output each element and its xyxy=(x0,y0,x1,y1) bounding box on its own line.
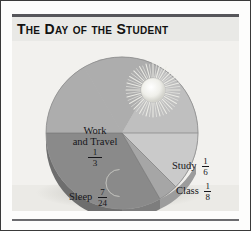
label-study: Study 1 6 xyxy=(172,157,209,177)
figure-bottom-rule xyxy=(12,219,239,221)
label-work-fraction: 1 3 xyxy=(88,148,102,168)
chart-area: Work and Travel 1 3 Study 1 6 Class 1 8 … xyxy=(12,41,239,211)
sun-icon xyxy=(126,63,180,117)
label-work-line2: and Travel xyxy=(73,136,118,147)
label-study-denominator: 6 xyxy=(202,167,209,177)
label-class-numerator: 1 xyxy=(204,182,211,193)
label-work-numerator: 1 xyxy=(88,148,102,159)
label-study-text: Study xyxy=(172,160,197,171)
label-sleep-denominator: 24 xyxy=(98,198,107,208)
label-class-fraction: 1 8 xyxy=(204,182,211,202)
label-sleep-fraction: 7 24 xyxy=(98,188,107,208)
figure-the-day-of-the-student: The Day of the Student xyxy=(0,0,251,231)
figure-title: The Day of the Student xyxy=(17,19,237,39)
label-sleep-numerator: 7 xyxy=(98,188,107,199)
label-study-numerator: 1 xyxy=(202,157,209,168)
label-work-denominator: 3 xyxy=(88,158,102,168)
label-work-line1: Work xyxy=(83,125,106,136)
label-work-and-travel: Work and Travel 1 3 xyxy=(60,125,130,168)
label-sleep-text: Sleep xyxy=(69,191,92,202)
label-class-denominator: 8 xyxy=(204,192,211,202)
label-class: Class 1 8 xyxy=(176,182,211,202)
label-study-fraction: 1 6 xyxy=(202,157,209,177)
label-sleep: Sleep 7 24 xyxy=(69,188,107,208)
label-class-text: Class xyxy=(176,185,199,196)
